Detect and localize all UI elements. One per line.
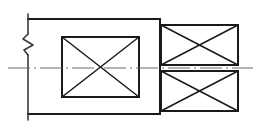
main-body-outline [28, 19, 160, 114]
right-lower-hatched-rectangle [161, 71, 238, 111]
technical-drawing-canvas [0, 0, 261, 131]
left-break-edge [23, 14, 33, 120]
drawing-svg [0, 0, 261, 131]
center-hatched-rectangle [62, 37, 139, 97]
right-upper-hatched-rectangle [161, 25, 238, 65]
break-zigzag-icon [23, 34, 33, 55]
